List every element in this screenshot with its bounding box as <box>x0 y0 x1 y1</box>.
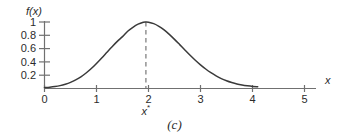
y-tick-label-0.6: 0.6 <box>2 43 36 54</box>
y-tick-label-0.8: 0.8 <box>2 30 36 41</box>
x-tick-label-4: 4 <box>242 94 263 105</box>
x-axis-label: x <box>325 75 331 86</box>
gaussian-curve <box>45 22 258 88</box>
x-tick-label-3: 3 <box>190 94 211 105</box>
x-tick-label-1: 1 <box>86 94 107 105</box>
y-tick-label-1: 1 <box>2 17 36 28</box>
x-tick-label-5: 5 <box>294 94 315 105</box>
y-tick-label-0.4: 0.4 <box>2 57 36 68</box>
x-tick-label-0: 0 <box>34 94 55 105</box>
peak-annotation-label: x* <box>135 106 157 117</box>
figure-panel-c: f(x) x 1 0.8 0.6 0.4 0.2 0 1 2 3 4 5 x* … <box>0 0 349 138</box>
y-tick-label-0.2: 0.2 <box>2 70 36 81</box>
figure-caption: (c) <box>0 118 349 131</box>
